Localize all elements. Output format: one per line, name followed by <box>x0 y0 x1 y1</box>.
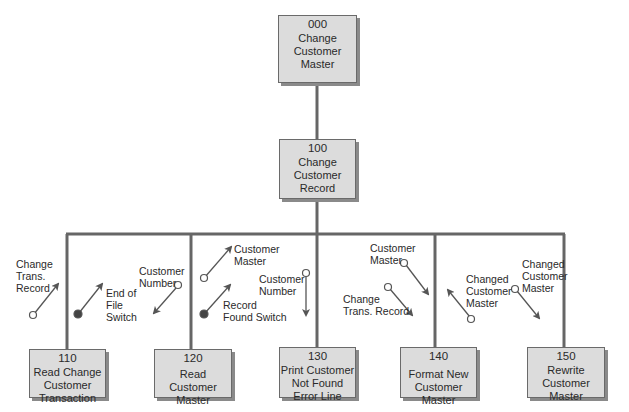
module-110: 110 Read Change Customer Transaction <box>29 349 106 398</box>
data-couple-icon <box>30 312 37 319</box>
module-title: Read Change Customer Transaction <box>30 366 105 405</box>
couple-label: Customer Master <box>234 243 280 267</box>
module-number: 110 <box>30 352 105 365</box>
module-number: 100 <box>280 142 355 155</box>
couple-arrow-eof-switch <box>79 284 102 313</box>
module-title: Change Customer Master <box>279 32 356 71</box>
module-000: 000 Change Customer Master <box>278 15 357 83</box>
module-number: 150 <box>528 350 604 363</box>
module-title: Print Customer Not Found Error Line <box>280 364 355 403</box>
module-100: 100 Change Customer Record <box>279 139 356 199</box>
module-120: 120 Read Customer Master <box>154 349 232 398</box>
data-couple-icon <box>201 275 208 282</box>
couple-label: Customer Number <box>139 265 185 289</box>
module-title: Format New Customer Master <box>401 368 476 407</box>
module-130: 130 Print Customer Not Found Error Line <box>279 347 356 398</box>
control-couple-icon <box>200 310 208 318</box>
module-number: 000 <box>279 18 356 31</box>
module-number: 130 <box>280 350 355 363</box>
module-number: 120 <box>155 352 231 365</box>
couple-arrow-customer-master-120 <box>205 247 231 277</box>
control-couple-icon <box>74 310 82 318</box>
module-title: Change Customer Record <box>280 156 355 195</box>
module-title: Read Customer Master <box>155 368 231 407</box>
couple-arrow-customer-master-140 <box>406 265 428 294</box>
couple-arrow-changed-master-150 <box>517 291 539 318</box>
couple-label: Change Trans. Record <box>16 258 53 294</box>
couple-label: Changed Customer Master <box>466 273 512 309</box>
module-140: 140 Format New Customer Master <box>400 347 477 398</box>
couple-label: Customer Master <box>370 242 416 266</box>
couple-label: End of File Switch <box>106 287 137 323</box>
module-number: 140 <box>401 350 476 363</box>
couple-arrow-customer-number-120 <box>154 288 176 313</box>
module-title: Rewrite Customer Master <box>528 364 604 403</box>
module-150: 150 Rewrite Customer Master <box>527 347 605 398</box>
couple-label: Changed Customer Master <box>522 258 568 294</box>
couple-label: Change Trans. Record <box>343 293 409 317</box>
data-couple-icon <box>468 316 475 323</box>
data-couple-icon <box>385 284 392 291</box>
couple-label: Customer Number <box>259 273 305 297</box>
couple-label: Record Found Switch <box>223 299 287 323</box>
data-couple-icon <box>512 286 519 293</box>
